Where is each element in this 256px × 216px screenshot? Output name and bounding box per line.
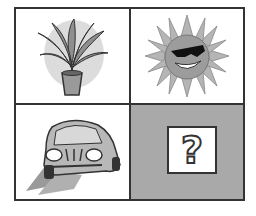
cell-unknown[interactable]: ?	[131, 105, 243, 199]
potted-plant-icon	[16, 9, 129, 103]
cell-car[interactable]	[16, 105, 131, 199]
car-icon	[16, 105, 129, 199]
question-mark-icon: ?	[169, 128, 215, 172]
sun-with-sunglasses-icon	[131, 9, 243, 103]
picture-grid: ?	[14, 7, 245, 201]
question-box[interactable]: ?	[167, 126, 217, 174]
cell-sun[interactable]	[131, 9, 243, 105]
cell-plant[interactable]	[16, 9, 131, 105]
